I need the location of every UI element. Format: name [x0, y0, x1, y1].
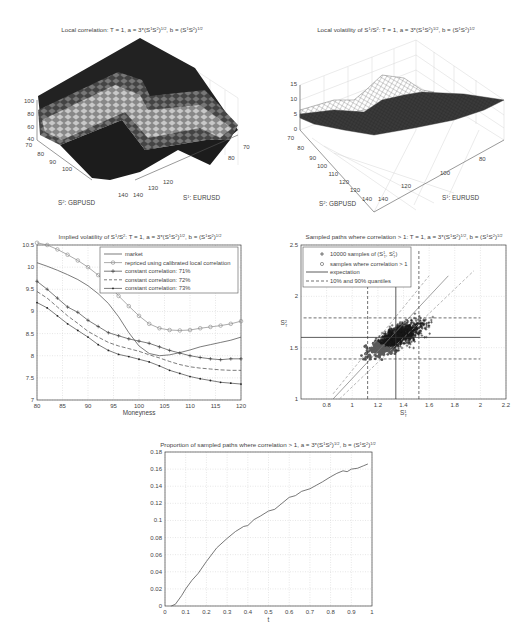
dot-marker — [199, 378, 201, 380]
y-tick-label: 8 — [31, 353, 35, 359]
x-tick-label: 1.8 — [451, 402, 460, 408]
svg-text:5: 5 — [294, 111, 298, 117]
proportion-svg: Proportion of sampled paths where correl… — [120, 430, 400, 641]
x-tick-label: 0.8 — [326, 609, 335, 615]
y-tick-label: 1 — [295, 396, 299, 402]
proportion-chart: Proportion of sampled paths where correl… — [120, 430, 400, 641]
y-tick-label: 9 — [31, 308, 35, 314]
plus-marker — [158, 345, 162, 349]
y-tick-label: 1.5 — [290, 345, 299, 351]
x-tick-label: 80 — [34, 403, 41, 409]
x-axis-label: S1: EURUSD — [442, 194, 479, 201]
local-correlation-surface-svg: Local correlation: T = 1, a = 3*(S1S2)1/… — [0, 0, 264, 220]
legend-entry: expectation — [330, 269, 360, 275]
svg-text:10: 10 — [290, 96, 297, 102]
quantile-diagonal — [339, 271, 474, 399]
x-tick-label: 0.6 — [285, 609, 294, 615]
legend-entry: constant correlation: 71% — [125, 268, 190, 274]
x-axis-label: S1T — [400, 409, 408, 418]
dot-marker — [87, 336, 89, 338]
svg-text:130: 130 — [350, 187, 361, 193]
x-tick-label: 95 — [110, 403, 117, 409]
plus-marker — [127, 337, 131, 341]
y-tick-label: 0.12 — [150, 500, 162, 506]
plus-marker — [239, 357, 243, 361]
y-tick-label: 10 — [27, 264, 34, 270]
svg-text:90: 90 — [49, 159, 56, 165]
dot-marker — [128, 356, 130, 358]
x-axis-label: S1: EURUSD — [183, 194, 220, 201]
x-tick-label: 0 — [163, 609, 167, 615]
x-tick-label: 1.4 — [399, 402, 408, 408]
implied-volatility-chart: Implied volatility of S1/S2: T = 1, a = … — [0, 225, 264, 425]
x-tick-label: 0.1 — [182, 609, 191, 615]
svg-text:120: 120 — [401, 183, 412, 189]
x-tick-label: 0.5 — [264, 609, 273, 615]
y-tick-label: 7.5 — [26, 375, 35, 381]
x-tick-label: 0.3 — [223, 609, 232, 615]
plot-area: 8085909510010511011512077.588.599.51010.… — [22, 241, 246, 417]
x-tick-label: 85 — [59, 403, 66, 409]
dot-marker — [169, 369, 171, 371]
svg-text:120: 120 — [163, 179, 174, 185]
y-tick-label: 9.5 — [26, 286, 35, 292]
plus-marker — [229, 357, 233, 361]
x-tick-label: 0.9 — [347, 609, 356, 615]
x-tick-label: 105 — [159, 403, 170, 409]
svg-text:110: 110 — [328, 171, 338, 177]
dot-marker — [179, 373, 181, 375]
svg-text:70: 70 — [243, 144, 250, 150]
dot-marker — [57, 315, 59, 317]
proportion-line — [171, 464, 368, 606]
svg-text:70: 70 — [25, 142, 32, 148]
x-tick-label: 1 — [351, 402, 355, 408]
y-tick-label: 0 — [159, 603, 163, 609]
svg-text:80: 80 — [228, 155, 235, 161]
svg-text:100: 100 — [24, 98, 35, 104]
svg-text:70: 70 — [287, 135, 294, 141]
svg-text:140: 140 — [118, 192, 129, 198]
plot-title: Local volatility of S1/S2: T = 1, a = 3*… — [317, 26, 475, 33]
local-volatility-mesh-svg: Local volatility of S1/S2: T = 1, a = 3*… — [264, 0, 528, 220]
dot-marker — [118, 353, 120, 355]
dot-marker — [77, 330, 79, 332]
plus-marker — [117, 334, 121, 338]
dot-marker — [240, 383, 242, 385]
svg-text:130: 130 — [148, 185, 159, 191]
dot-marker — [138, 358, 140, 360]
plus-marker — [219, 358, 223, 362]
dot-marker — [108, 350, 110, 352]
svg-text:140: 140 — [133, 192, 144, 198]
x-tick-label: 110 — [185, 403, 195, 409]
y-tick-label: 0.14 — [150, 483, 162, 489]
svg-text:100: 100 — [317, 163, 328, 169]
y-tick-label: 0.04 — [150, 569, 162, 575]
dot-marker — [189, 376, 191, 378]
legend-entry: constant correlation: 72% — [125, 277, 190, 283]
svg-text:60: 60 — [27, 124, 34, 130]
x-tick-label: 115 — [211, 403, 221, 409]
x-tick-label: 1 — [370, 609, 374, 615]
x-tick-label: 1.2 — [374, 402, 383, 408]
y-tick-label: 8.5 — [26, 331, 35, 337]
x-axis-label: Moneyness — [123, 409, 156, 417]
y-tick-labels: 70 80 90 100 110 120 130 140 — [287, 135, 372, 202]
plus-marker — [107, 331, 111, 335]
y-tick-label: 0.06 — [150, 552, 162, 558]
x-tick-label: 120 — [236, 403, 247, 409]
dot-marker — [67, 323, 69, 325]
x-tick-label: 90 — [85, 403, 92, 409]
y-tick-label: 0.02 — [150, 586, 162, 592]
y-tick-label: 2.5 — [290, 242, 299, 248]
svg-text:100: 100 — [440, 170, 451, 176]
svg-text:120: 120 — [339, 179, 350, 185]
plus-marker — [147, 342, 151, 346]
svg-text:0: 0 — [294, 126, 298, 132]
y-tick-label: 2 — [295, 293, 299, 299]
plot-title: Proportion of sampled paths where correl… — [160, 441, 376, 448]
x-tick-label: 2 — [479, 402, 483, 408]
legend-entry: constant correlation: 73% — [125, 285, 190, 291]
x-tick-label: 1.6 — [425, 402, 434, 408]
legend-entry: samples where correlation > 1 — [330, 261, 408, 267]
y-axis-label: S2T — [281, 319, 289, 328]
